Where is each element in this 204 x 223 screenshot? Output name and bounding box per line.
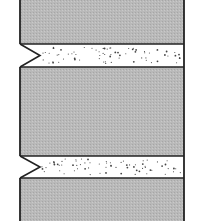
diagram-canvas [0,0,204,223]
upper-band [20,44,184,67]
solid-blocks [20,0,184,221]
top-block [20,0,184,44]
layered-column-diagram [0,0,204,223]
lower-band [20,156,184,178]
bottom-block [20,178,184,221]
middle-block [20,67,184,156]
